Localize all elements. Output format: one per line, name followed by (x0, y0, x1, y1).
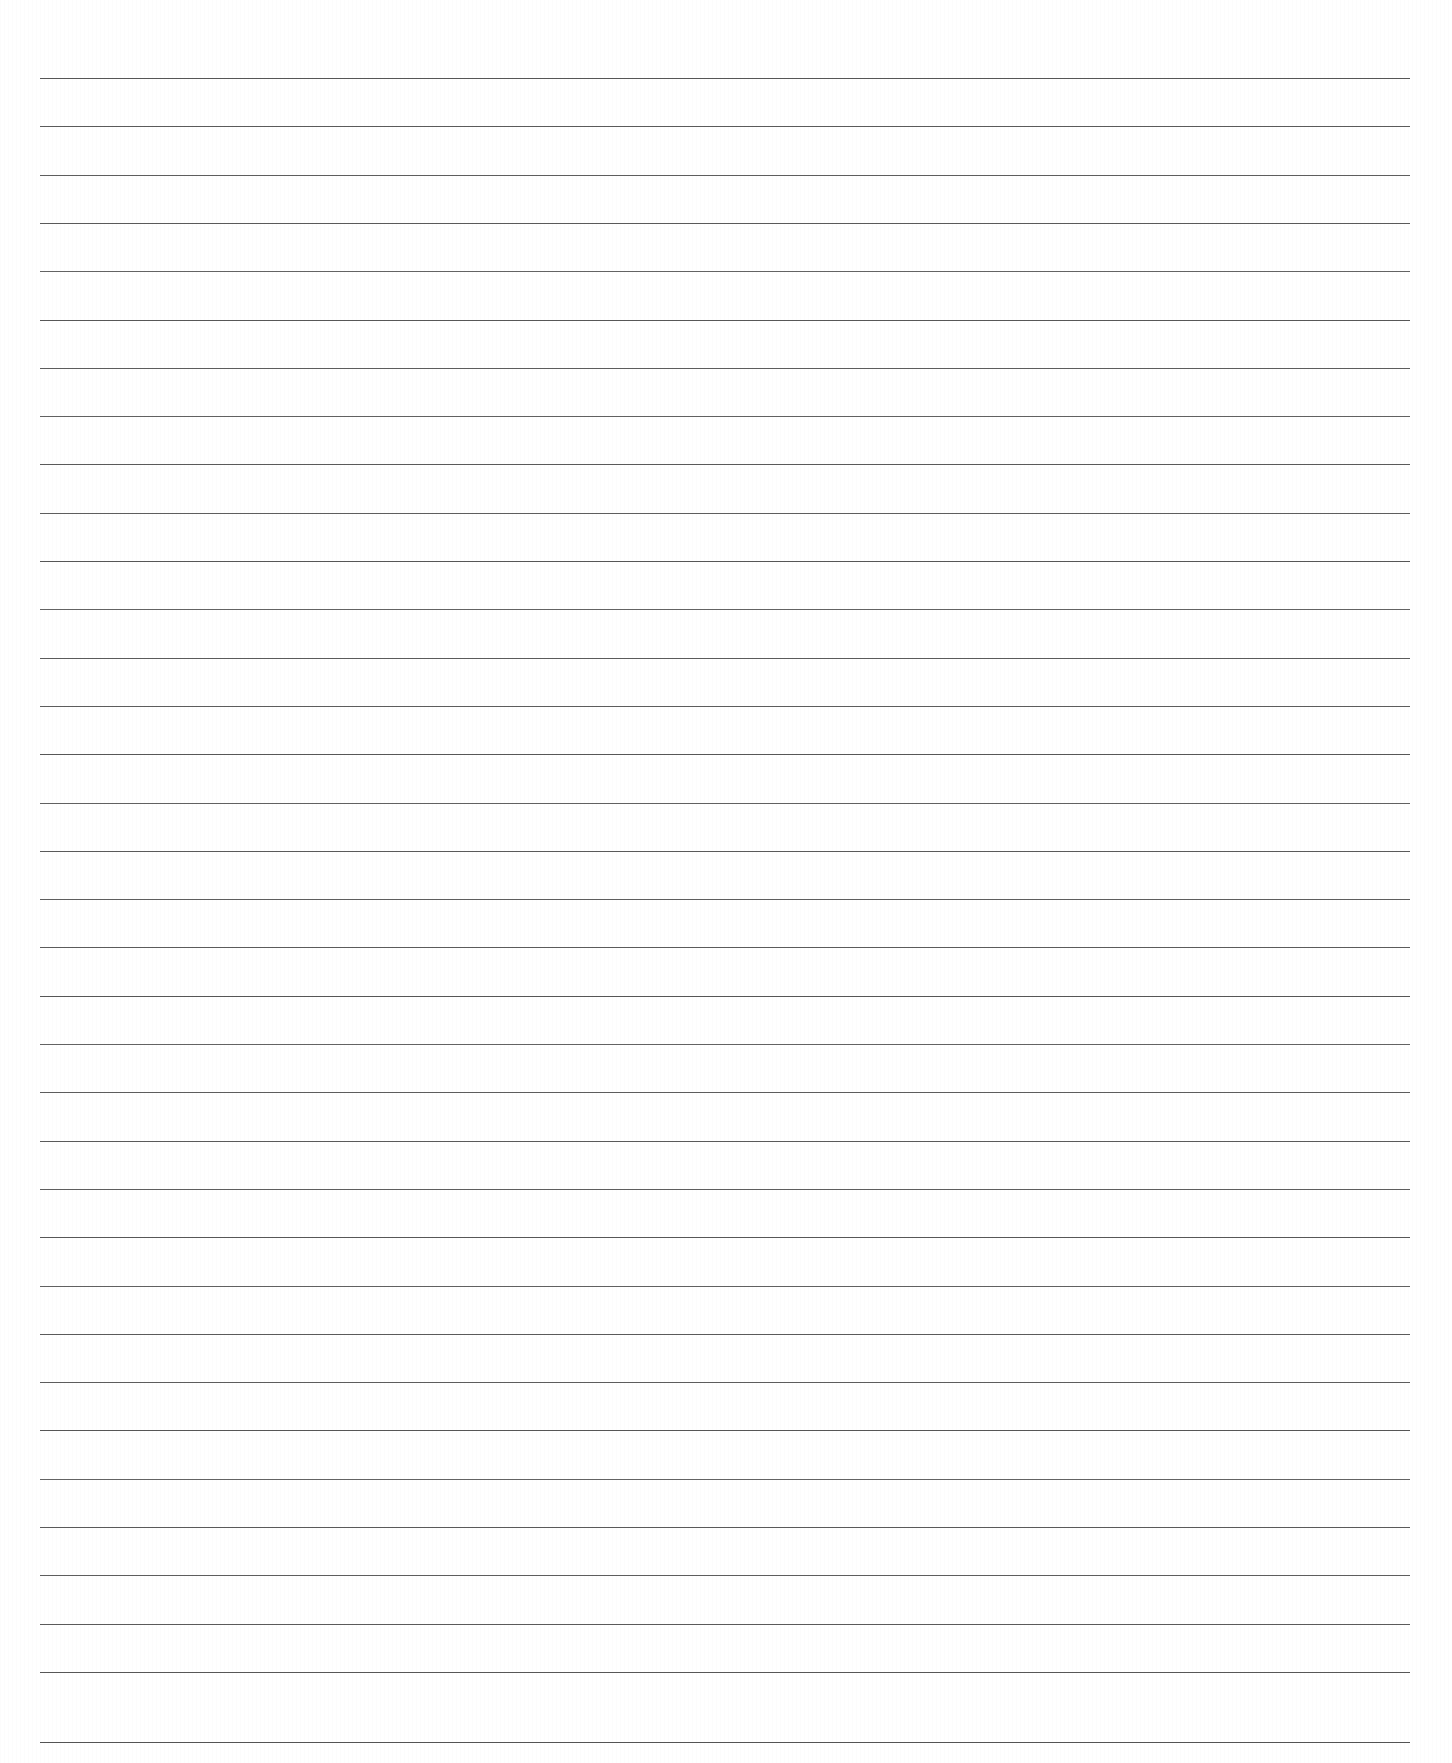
rule-line (40, 803, 1410, 804)
rule-line (40, 464, 1410, 465)
rule-line (40, 175, 1410, 176)
rule-line (40, 706, 1410, 707)
rule-line (40, 1575, 1410, 1576)
rule-line (40, 947, 1410, 948)
rule-line (40, 851, 1410, 852)
rule-line (40, 271, 1410, 272)
rule-line (40, 78, 1410, 79)
rule-line (40, 1479, 1410, 1480)
rule-line (40, 754, 1410, 755)
rule-line (40, 1189, 1410, 1190)
rule-line (40, 609, 1410, 610)
rule-line (40, 1624, 1410, 1625)
scan-grain-overlay (0, 0, 1452, 1763)
rule-line (40, 513, 1410, 514)
rule-line (40, 1742, 1410, 1743)
rule-line (40, 223, 1410, 224)
rule-line (40, 1430, 1410, 1431)
rule-line (40, 1382, 1410, 1383)
rule-line (40, 368, 1410, 369)
rule-line (40, 1141, 1410, 1142)
rule-line (40, 1044, 1410, 1045)
rule-line (40, 416, 1410, 417)
rule-line (40, 126, 1410, 127)
rule-line (40, 561, 1410, 562)
rule-line (40, 320, 1410, 321)
rule-line (40, 1286, 1410, 1287)
rule-line (40, 658, 1410, 659)
rule-line (40, 1092, 1410, 1093)
rule-line (40, 996, 1410, 997)
rule-line (40, 899, 1410, 900)
rule-line (40, 1237, 1410, 1238)
rule-line (40, 1334, 1410, 1335)
rule-line (40, 1527, 1410, 1528)
rule-line (40, 1672, 1410, 1673)
paper-sheet (0, 0, 1452, 1763)
